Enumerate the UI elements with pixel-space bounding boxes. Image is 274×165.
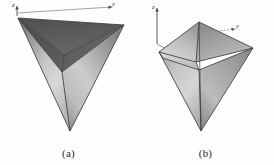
panel-a-caption: (a) bbox=[0, 147, 137, 159]
figure-panel-a: y z (a bbox=[0, 0, 137, 165]
figure-container: y z (a bbox=[0, 0, 274, 165]
tetrahedron-a-graphic: y z bbox=[0, 0, 137, 165]
panel-b-caption: (b) bbox=[137, 147, 274, 159]
y-axis-label-b: y bbox=[235, 22, 240, 30]
axes-group-a: y z bbox=[11, 0, 116, 16]
tetrahedron-b-graphic: y z bbox=[137, 0, 274, 165]
z-axis-label-b: z bbox=[151, 3, 155, 11]
z-axis-label-a: z bbox=[11, 1, 15, 9]
figure-panel-b: y z bbox=[137, 0, 274, 165]
y-axis-label-a: y bbox=[111, 0, 116, 8]
y-axis-line-a bbox=[17, 7, 112, 13]
